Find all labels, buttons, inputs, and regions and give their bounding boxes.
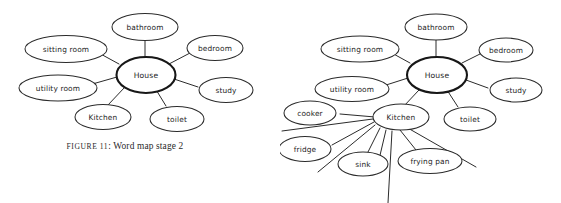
node2-bedroom-label: bedroom (489, 46, 523, 55)
node2-study-label: study (505, 86, 527, 95)
word-map-stage-2-canvas: bathroom bedroom study toilet Kitchen ut (0, 0, 280, 203)
node-toilet-label: toilet (167, 115, 187, 124)
node2-sink-label: sink (355, 160, 371, 169)
link2-kitchen-cooker (340, 114, 375, 117)
figure-page: bathroom bedroom study toilet Kitchen ut (0, 0, 561, 203)
node-kitchen-label: Kitchen (89, 113, 118, 122)
figure-caption-prefix: FIGURE 11 (67, 142, 109, 151)
node-toilet[interactable]: toilet (150, 107, 204, 132)
word-map-stage-3-diagram: bathroom bedroom study toilet utility ro… (280, 0, 561, 203)
node2-kitchen-hub[interactable]: Kitchen (373, 104, 429, 130)
node2-sink[interactable]: sink (338, 152, 388, 176)
node2-kitchen-hub-label: Kitchen (387, 113, 416, 122)
node2-frying-pan[interactable]: frying pan (398, 149, 462, 174)
link2-house-study (466, 80, 488, 88)
node2-frying-pan-label: frying pan (410, 157, 449, 166)
node-sitting-room[interactable]: sitting room (25, 36, 107, 63)
node-kitchen[interactable]: Kitchen (75, 105, 131, 130)
node2-sitting-room[interactable]: sitting room (321, 36, 399, 62)
node-study-label: study (215, 86, 237, 95)
node-bedroom-label: bedroom (198, 44, 232, 53)
node2-cooker[interactable]: cooker (284, 101, 336, 125)
node-house-center-label: House (134, 71, 159, 80)
figure-caption: FIGURE 11: Word map stage 2 (0, 141, 250, 151)
node2-house-center-label: House (425, 71, 450, 80)
node2-toilet[interactable]: toilet (444, 107, 496, 131)
node-house-center[interactable]: House (117, 57, 176, 93)
node-utility-room-label: utility room (36, 84, 80, 93)
node2-house-center[interactable]: House (407, 57, 467, 93)
node-bedroom[interactable]: bedroom (187, 36, 243, 61)
link2-house-bedroom (462, 54, 480, 63)
link2-house-kitchen (404, 90, 419, 106)
node-bathroom-label: bathroom (126, 23, 163, 32)
word-map-stage-2-diagram: bathroom bedroom study toilet Kitchen ut (0, 0, 280, 203)
node2-bathroom[interactable]: bathroom (405, 14, 467, 40)
node2-utility-room[interactable]: utility room (315, 77, 389, 102)
word-map-stage-3-canvas: bathroom bedroom study toilet utility ro… (280, 0, 561, 203)
node2-sitting-room-label: sitting room (337, 45, 383, 54)
figure-caption-text: Word map stage 2 (113, 141, 183, 151)
node-study[interactable]: study (199, 78, 253, 103)
link-house-kitchen (108, 87, 125, 105)
node2-toilet-label: toilet (460, 115, 480, 124)
node-utility-room[interactable]: utility room (19, 75, 97, 101)
node2-bedroom[interactable]: bedroom (479, 38, 533, 62)
node2-fridge-label: fridge (294, 145, 317, 154)
node2-bathroom-label: bathroom (417, 23, 454, 32)
node-sitting-room-label: sitting room (43, 45, 89, 54)
node-bathroom[interactable]: bathroom (112, 14, 178, 41)
node2-cooker-label: cooker (297, 109, 323, 118)
node2-utility-room-label: utility room (330, 85, 374, 94)
node2-study[interactable]: study (490, 78, 542, 102)
link2-kitchen-fridge (332, 122, 374, 145)
node2-fridge[interactable]: fridge (280, 137, 331, 162)
link-house-bedroom (169, 53, 190, 64)
link2-kitchen-blank-4 (388, 131, 392, 203)
link-house-study (174, 79, 198, 87)
